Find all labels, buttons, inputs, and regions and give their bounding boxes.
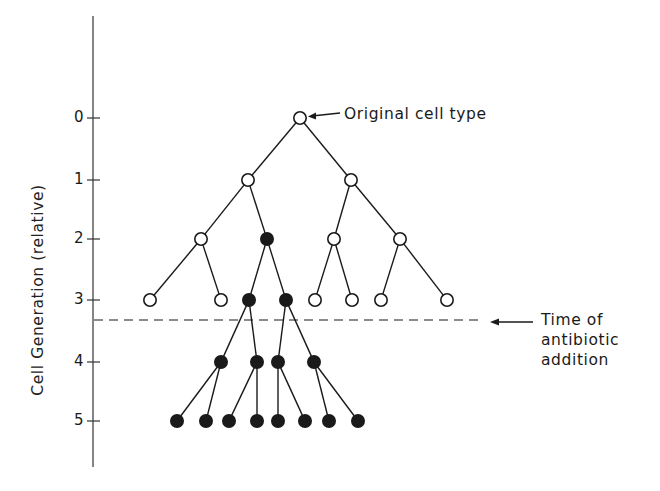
tick-label-4: 4 xyxy=(74,354,84,369)
lineage-edge xyxy=(203,245,219,294)
lineage-edge xyxy=(252,123,296,175)
resistant-cell-node xyxy=(280,294,292,306)
annotation-arrows xyxy=(308,113,533,326)
lineage-edge xyxy=(154,244,197,295)
resistant-cell-node xyxy=(251,356,263,368)
lineage-edge xyxy=(281,368,303,416)
resistant-cell-node xyxy=(200,415,212,427)
y-axis xyxy=(87,16,100,467)
susceptible-cell-node xyxy=(144,294,156,306)
susceptible-cell-node xyxy=(441,294,453,306)
susceptible-cell-node xyxy=(294,112,306,124)
resistant-cell-node xyxy=(323,415,335,427)
cell-nodes xyxy=(144,112,453,427)
antibiotic-label-line3: addition xyxy=(541,350,619,370)
lineage-edge xyxy=(316,368,328,415)
susceptible-cell-node xyxy=(328,233,340,245)
lineage-edge xyxy=(208,368,220,415)
resistant-cell-node xyxy=(308,356,320,368)
resistant-cell-node xyxy=(223,415,235,427)
resistant-cell-node xyxy=(352,415,364,427)
susceptible-cell-node xyxy=(394,233,406,245)
original-arrow-shaft xyxy=(312,113,340,116)
lineage-edge xyxy=(318,367,355,416)
resistant-cell-node xyxy=(272,356,284,368)
lineage-diagram xyxy=(0,0,660,491)
lineage-edge xyxy=(336,245,350,294)
resistant-cell-node xyxy=(299,415,311,427)
lineage-edges xyxy=(154,123,443,416)
resistant-cell-node xyxy=(251,415,263,427)
lineage-edge xyxy=(304,123,347,175)
susceptible-cell-node xyxy=(242,174,254,186)
susceptible-cell-node xyxy=(345,174,357,186)
lineage-edge xyxy=(250,306,256,356)
resistant-cell-node xyxy=(272,415,284,427)
lineage-edge xyxy=(181,367,218,416)
antibiotic-arrow-head-icon xyxy=(490,319,499,326)
tick-label-5: 5 xyxy=(74,413,84,428)
resistant-cell-node xyxy=(261,233,273,245)
lineage-edge xyxy=(269,245,284,294)
susceptible-cell-node xyxy=(346,294,358,306)
antibiotic-label-line2: antibiotic xyxy=(541,330,619,350)
susceptible-cell-node xyxy=(375,294,387,306)
lineage-edge xyxy=(317,245,332,294)
tick-label-2: 2 xyxy=(74,231,84,246)
lineage-edge xyxy=(224,306,247,357)
lineage-edge xyxy=(289,306,312,357)
resistant-cell-node xyxy=(243,294,255,306)
original-arrow-head-icon xyxy=(308,113,316,120)
lineage-edge xyxy=(404,244,443,295)
original-cell-label: Original cell type xyxy=(344,104,487,124)
axis-title: Cell Generation (relative) xyxy=(29,184,47,395)
tick-label-3: 3 xyxy=(74,292,84,307)
susceptible-cell-node xyxy=(195,233,207,245)
susceptible-cell-node xyxy=(215,294,227,306)
antibiotic-label-line1: Time of xyxy=(541,310,619,330)
tick-label-0: 0 xyxy=(74,110,84,125)
resistant-cell-node xyxy=(215,356,227,368)
resistant-cell-node xyxy=(171,415,183,427)
lineage-edge xyxy=(336,186,350,233)
lineage-edge xyxy=(355,185,396,234)
lineage-edge xyxy=(250,186,265,233)
tick-label-1: 1 xyxy=(74,172,84,187)
lineage-edge xyxy=(279,306,285,356)
lineage-edge xyxy=(232,368,255,416)
lineage-edge xyxy=(251,245,265,294)
antibiotic-label: Time of antibiotic addition xyxy=(541,310,619,370)
lineage-edge xyxy=(383,245,398,294)
susceptible-cell-node xyxy=(309,294,321,306)
lineage-edge xyxy=(205,185,244,234)
